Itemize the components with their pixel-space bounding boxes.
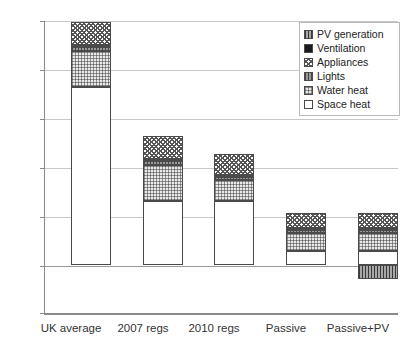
legend-item-appliances[interactable]: Appliances	[304, 55, 395, 69]
lights-swatch-icon	[304, 72, 313, 81]
segment-appliances[interactable]	[71, 22, 111, 45]
bar-2010-regs[interactable]	[214, 21, 254, 314]
segment-lights[interactable]	[143, 161, 183, 165]
segment-pv-generation[interactable]	[358, 265, 398, 279]
y-tick-mark	[40, 266, 45, 267]
x-axis-label-passive-pv: Passive+PV	[310, 322, 406, 334]
water-heat-swatch-icon	[304, 86, 313, 95]
plot-bottom-rule	[44, 314, 398, 315]
y-tick-mark	[40, 70, 45, 71]
legend-label: Lights	[317, 71, 345, 82]
legend-label: Ventilation	[317, 43, 365, 54]
segment-space-heat[interactable]	[71, 87, 111, 265]
segment-space-heat[interactable]	[358, 251, 398, 266]
segment-water-heat[interactable]	[358, 233, 398, 251]
segment-space-heat[interactable]	[214, 201, 254, 265]
legend-label: Water heat	[317, 85, 368, 96]
segment-appliances[interactable]	[358, 213, 398, 228]
y-tick-mark	[40, 168, 45, 169]
segment-appliances[interactable]	[286, 213, 326, 228]
segment-lights[interactable]	[71, 47, 111, 51]
legend-label: Space heat	[317, 99, 370, 110]
appliances-swatch-icon	[304, 58, 313, 67]
segment-lights[interactable]	[214, 177, 254, 180]
chart-legend: PV generation Ventilation Appliances Lig…	[299, 22, 400, 116]
segment-ventilation[interactable]	[71, 45, 111, 47]
segment-water-heat[interactable]	[214, 180, 254, 201]
segment-water-heat[interactable]	[286, 233, 326, 251]
legend-item-space-heat[interactable]: Space heat	[304, 97, 395, 111]
y-tick-mark	[40, 21, 45, 22]
segment-appliances[interactable]	[214, 154, 254, 175]
legend-item-lights[interactable]: Lights	[304, 69, 395, 83]
pv-generation-swatch-icon	[304, 30, 313, 39]
stacked-bar-chart: 250 200 150 100 50 0 -50	[0, 0, 410, 351]
segment-ventilation[interactable]	[358, 228, 398, 230]
legend-label: Appliances	[317, 57, 368, 68]
legend-item-water-heat[interactable]: Water heat	[304, 83, 395, 97]
segment-ventilation[interactable]	[214, 175, 254, 177]
ventilation-swatch-icon	[304, 44, 313, 53]
segment-water-heat[interactable]	[71, 51, 111, 87]
segment-lights[interactable]	[358, 230, 398, 233]
y-tick-mark	[40, 119, 45, 120]
legend-label: PV generation	[317, 29, 384, 40]
segment-space-heat[interactable]	[143, 201, 183, 265]
segment-lights[interactable]	[286, 230, 326, 233]
segment-water-heat[interactable]	[143, 165, 183, 201]
segment-ventilation[interactable]	[143, 159, 183, 161]
bar-uk-average[interactable]	[71, 21, 111, 314]
segment-appliances[interactable]	[143, 136, 183, 158]
space-heat-swatch-icon	[304, 100, 313, 109]
bar-2007-regs[interactable]	[143, 21, 183, 314]
y-tick-mark	[40, 217, 45, 218]
segment-ventilation[interactable]	[286, 228, 326, 230]
legend-item-ventilation[interactable]: Ventilation	[304, 41, 395, 55]
legend-item-pv-generation[interactable]: PV generation	[304, 27, 395, 41]
segment-space-heat[interactable]	[286, 251, 326, 266]
